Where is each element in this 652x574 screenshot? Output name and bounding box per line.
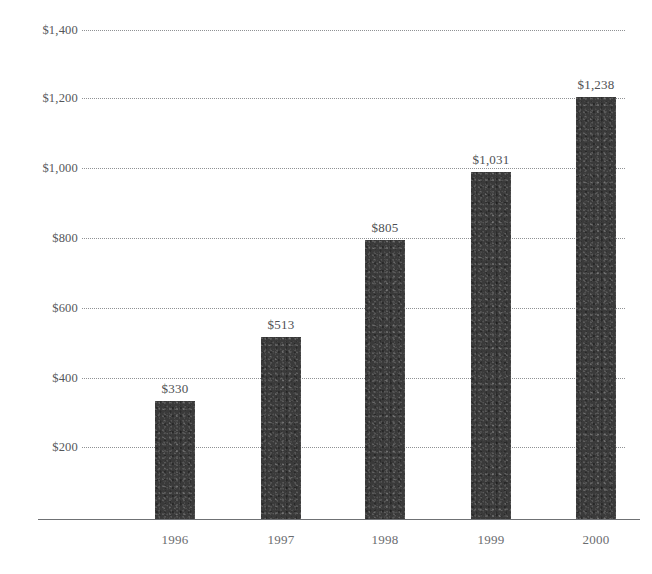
y-axis-tick-label: $1,400 [42,23,78,38]
y-axis-tick-label: $800 [52,231,78,246]
x-axis-label-1998: 1998 [345,532,425,548]
gridline-400 [82,378,625,379]
y-axis-tick-label: $200 [52,440,78,455]
y-axis-tick-label: $400 [52,371,78,386]
value-label-2000: $1,238 [551,77,641,93]
gridline-1400 [82,30,625,31]
x-axis-label-1996: 1996 [135,532,215,548]
x-axis-line [38,519,640,520]
bar-chart: $200 $400 $600 $800 $1,000 $1,200 $1,400 [0,0,652,574]
value-label-1996: $330 [135,381,215,397]
gridline-600 [82,308,625,309]
gridline-800 [82,238,625,239]
value-label-1999: $1,031 [446,152,536,168]
bar-1998 [365,240,405,519]
plot-area: $200 $400 $600 $800 $1,000 $1,200 $1,400 [0,0,652,574]
value-label-1998: $805 [345,220,425,236]
y-axis-tick-label: $600 [52,301,78,316]
y-axis-tick-label: $1,200 [42,91,78,106]
x-axis-label-1997: 1997 [241,532,321,548]
bar-1996 [155,401,195,519]
y-axis-tick-label: $1,000 [42,161,78,176]
bar-1999 [471,172,511,519]
bar-2000 [576,97,616,519]
bar-1997 [261,337,301,519]
value-label-1997: $513 [241,317,321,333]
x-axis-label-2000: 2000 [556,532,636,548]
x-axis-label-1999: 1999 [451,532,531,548]
gridline-1000 [82,168,625,169]
gridline-1200 [82,98,625,99]
